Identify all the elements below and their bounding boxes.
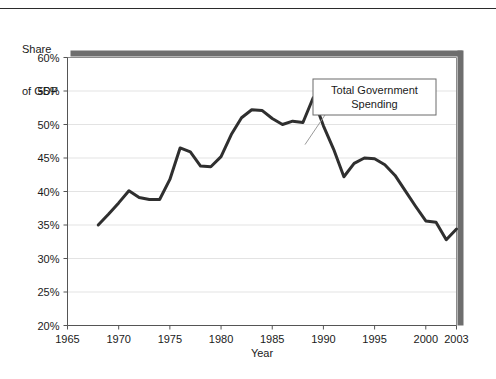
x-tick-label: 1990 — [311, 333, 335, 345]
x-tick-label: 1980 — [209, 333, 233, 345]
y-tick-label: 40% — [37, 186, 59, 198]
frame-shadow-top — [71, 51, 463, 57]
series-lines — [98, 98, 456, 240]
x-tick-label: 1995 — [362, 333, 386, 345]
y-tick-label: 35% — [37, 219, 59, 231]
x-axis-ticks: 196519701975198019851990199520002003 — [55, 326, 468, 345]
y-tick-label: 50% — [37, 119, 59, 131]
frame-shadow-right — [458, 51, 464, 326]
y-tick-label: 45% — [37, 152, 59, 164]
chart-canvas: 20%25%30%35%40%45%50%55%60% 196519701975… — [0, 0, 496, 379]
x-tick-label: 1985 — [260, 333, 284, 345]
y-tick-label: 60% — [37, 52, 59, 64]
annotation-callout: Total GovernmentSpending — [305, 79, 436, 145]
x-tick-label: 2003 — [444, 333, 468, 345]
annotation-label-line2: Spending — [351, 98, 398, 110]
y-tick-label: 55% — [37, 85, 59, 97]
x-axis-title: Year — [251, 347, 274, 359]
x-tick-label: 1965 — [55, 333, 79, 345]
y-axis-ticks: 20%25%30%35%40%45%50%55%60% — [37, 52, 67, 332]
y-tick-label: 25% — [37, 286, 59, 298]
annotation-leader-line — [305, 115, 325, 145]
chart-page: Share of GDP 20%25%30%35%40%45%50%55%60%… — [0, 0, 496, 379]
x-tick-label: 1975 — [158, 333, 182, 345]
gridlines — [68, 91, 457, 292]
annotation-label-line1: Total Government — [331, 84, 418, 96]
y-tick-label: 30% — [37, 253, 59, 265]
series-line-total-government-spending — [98, 98, 456, 240]
y-tick-label: 20% — [37, 320, 59, 332]
x-tick-label: 2000 — [414, 333, 438, 345]
x-tick-label: 1970 — [106, 333, 130, 345]
